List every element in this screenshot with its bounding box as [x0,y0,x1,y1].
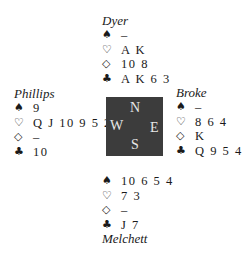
west-diamonds-cards: – [33,130,41,145]
south-hand: ♠10 6 5 4 ♡7 3 ◇– ♣J 7 Melchett [102,174,147,246]
heart-icon: ♡ [102,43,116,58]
east-hearts-cards: 8 6 4 [195,115,228,130]
north-hearts-row: ♡A K [102,43,128,58]
diamond-icon: ◇ [102,57,116,72]
spade-icon: ♠ [102,28,116,43]
east-clubs-cards: Q 9 5 4 [195,144,243,159]
diamond-icon: ◇ [14,130,28,145]
east-diamonds-row: ◇K [176,129,207,144]
west-hearts-row: ♡Q J 10 9 5 2 [14,116,54,131]
east-hand: Broke ♠– ♡8 6 4 ◇K ♣Q 9 5 4 [176,86,207,158]
diamond-icon: ◇ [176,129,190,144]
west-spades-row: ♠9 [14,101,54,116]
east-clubs-row: ♣Q 9 5 4 [176,144,207,159]
south-hearts-cards: 7 3 [121,189,141,204]
north-diamonds-cards: 10 8 [121,57,149,72]
west-player-name: Phillips [14,87,54,101]
west-hearts-cards: Q J 10 9 5 2 [33,116,112,131]
club-icon: ♣ [102,72,116,87]
compass-box: N W E S [106,97,163,156]
east-player-name: Broke [176,86,207,100]
north-hand: Dyer ♠– ♡A K ◇10 8 ♣A K 6 3 [102,14,128,86]
south-spades-row: ♠10 6 5 4 [102,174,147,189]
spade-icon: ♠ [176,100,190,115]
heart-icon: ♡ [176,115,190,130]
west-clubs-cards: 10 [33,145,49,160]
south-clubs-row: ♣J 7 [102,218,147,233]
club-icon: ♣ [102,218,116,233]
spade-icon: ♠ [14,101,28,116]
east-spades-row: ♠– [176,100,207,115]
north-hearts-cards: A K [121,43,146,58]
club-icon: ♣ [176,144,190,159]
south-spades-cards: 10 6 5 4 [121,174,174,189]
south-diamonds-row: ◇– [102,203,147,218]
north-spades-cards: – [121,28,129,43]
west-diamonds-row: ◇– [14,130,54,145]
south-player-name: Melchett [102,232,147,246]
heart-icon: ♡ [102,189,116,204]
west-clubs-row: ♣10 [14,145,54,160]
heart-icon: ♡ [14,116,28,131]
east-diamonds-cards: K [195,129,206,144]
south-hearts-row: ♡7 3 [102,189,147,204]
compass-west-label: W [110,119,123,133]
compass-south-label: S [131,138,139,152]
north-spades-row: ♠– [102,28,128,43]
diamond-icon: ◇ [102,203,116,218]
south-clubs-cards: J 7 [121,218,140,233]
west-hand: Phillips ♠9 ♡Q J 10 9 5 2 ◇– ♣10 [14,87,54,159]
north-player-name: Dyer [102,14,128,28]
spade-icon: ♠ [102,174,116,189]
north-clubs-cards: A K 6 3 [121,72,171,87]
south-diamonds-cards: – [121,203,129,218]
compass-north-label: N [130,101,140,115]
compass-east-label: E [150,121,159,135]
west-spades-cards: 9 [33,101,41,116]
east-hearts-row: ♡8 6 4 [176,115,207,130]
club-icon: ♣ [14,145,28,160]
north-diamonds-row: ◇10 8 [102,57,128,72]
east-spades-cards: – [195,100,203,115]
north-clubs-row: ♣A K 6 3 [102,72,128,87]
